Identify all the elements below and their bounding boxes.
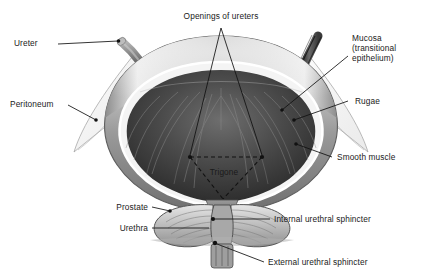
urethra-tube — [211, 244, 233, 268]
label-urethra: Urethra — [96, 223, 148, 233]
label-mucosa-group: Mucosa (transitional epithelium) — [352, 33, 396, 64]
label-ureter: Ureter — [14, 38, 38, 48]
diagram-canvas: Ureter Peritoneum Openings of ureters Mu… — [0, 0, 442, 273]
label-trigone: Trigone — [196, 167, 252, 177]
label-mucosa-line3: epithelium) — [352, 53, 396, 63]
label-openings-of-ureters: Openings of ureters — [150, 11, 292, 21]
label-mucosa-line1: Mucosa — [352, 33, 396, 43]
label-internal-urethral-sphincter: Internal urethral sphincter — [274, 214, 371, 224]
label-rugae: Rugae — [355, 96, 380, 106]
label-smooth-muscle: Smooth muscle — [337, 152, 395, 162]
right-ureteric-orifice — [260, 155, 264, 159]
left-ureteric-orifice — [188, 155, 192, 159]
label-peritoneum: Peritoneum — [10, 99, 53, 109]
internal-sphincter-marker — [211, 217, 215, 221]
label-prostate: Prostate — [96, 202, 148, 212]
label-external-urethral-sphincter: External urethral sphincter — [268, 257, 368, 267]
external-sphincter-marker — [213, 241, 217, 245]
label-mucosa-line2: (transitional — [352, 43, 396, 53]
bladder-lumen — [120, 62, 323, 206]
